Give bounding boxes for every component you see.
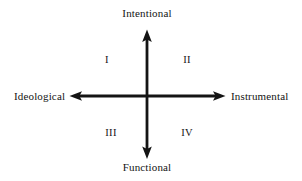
quadrant-diagram: Intentional Functional Ideological Instr… bbox=[0, 0, 302, 181]
quadrant-label-iv: IV bbox=[181, 127, 193, 139]
axis-label-top: Intentional bbox=[122, 7, 171, 20]
axis-label-left: Ideological bbox=[14, 90, 65, 103]
quadrant-label-iii: III bbox=[105, 127, 116, 139]
quadrant-label-i: I bbox=[105, 54, 109, 66]
axis-label-bottom: Functional bbox=[123, 161, 172, 174]
axis-label-right: Instrumental bbox=[231, 90, 288, 103]
quadrant-label-ii: II bbox=[183, 54, 191, 66]
